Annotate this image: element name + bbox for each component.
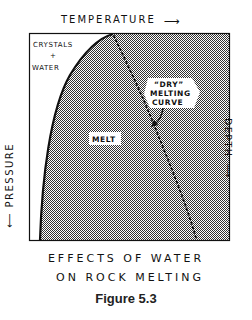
annotation-line1: “DRY” [154, 80, 184, 89]
down-arrow-icon: ⟵ [223, 162, 234, 177]
annotation-line2: MELTING [150, 89, 191, 98]
figure-label: Figure 5.3 [0, 291, 252, 306]
caption-line2: ON ROCK MELTING [0, 271, 252, 284]
pressure-text: PRESSURE [4, 143, 15, 208]
melt-region [40, 34, 229, 240]
down-arrow-icon: ⟵ [4, 212, 15, 228]
temperature-axis-label: TEMPERATURE [61, 14, 156, 25]
caption-line1: EFFECTS OF WATER [0, 252, 252, 265]
temperature-text: TEMPERATURE [61, 14, 156, 25]
water-label: WATER [32, 64, 59, 72]
plus-label: + [50, 52, 56, 60]
depth-text: DEPTH [223, 118, 234, 158]
annotation-line3: CURVE [152, 98, 183, 107]
right-arrow-icon: ⟶ [164, 15, 181, 28]
crystals-label: CRYSTALS [33, 41, 73, 49]
melt-label: MELT [92, 135, 116, 144]
depth-axis-label: DEPTH ⟵ [223, 118, 234, 208]
pressure-axis-label: ⟵ PRESSURE [4, 118, 15, 228]
